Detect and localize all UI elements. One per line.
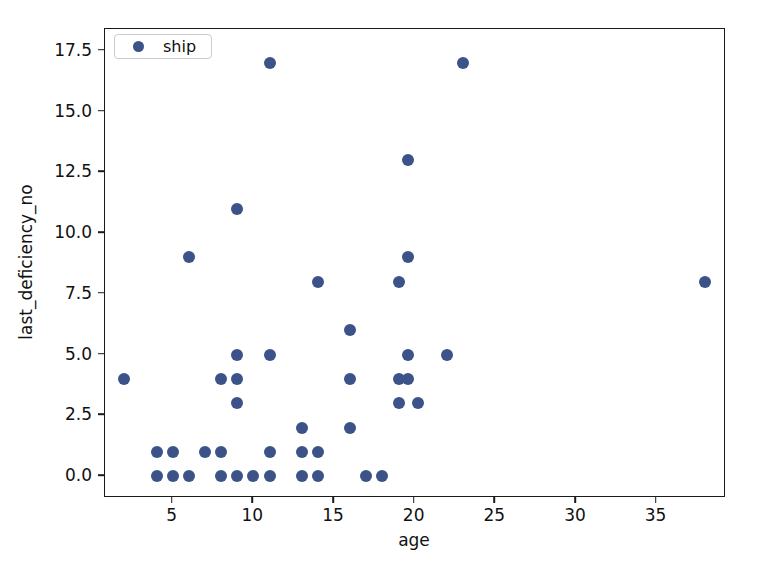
data-point	[312, 446, 324, 458]
data-point	[231, 203, 243, 215]
x-tick-mark	[332, 497, 334, 503]
data-point	[264, 446, 276, 458]
x-tick-label: 25	[484, 505, 506, 525]
x-tick-mark	[171, 497, 173, 503]
data-point	[402, 349, 414, 361]
x-tick-label: 10	[242, 505, 264, 525]
data-point	[296, 470, 308, 482]
y-tick-label: 7.5	[65, 283, 92, 303]
data-point	[247, 470, 259, 482]
data-point	[376, 470, 388, 482]
data-point	[231, 397, 243, 409]
data-point	[393, 397, 405, 409]
data-point	[231, 349, 243, 361]
data-point	[183, 251, 195, 263]
data-point	[360, 470, 372, 482]
data-point	[215, 446, 227, 458]
data-point	[199, 446, 211, 458]
data-point	[215, 373, 227, 385]
data-point	[231, 470, 243, 482]
y-tick-mark	[98, 231, 104, 233]
x-tick-mark	[574, 497, 576, 503]
data-point	[344, 324, 356, 336]
y-tick-label: 12.5	[54, 161, 92, 181]
x-tick-label: 5	[166, 505, 177, 525]
legend: ship	[114, 34, 212, 59]
y-tick-label: 10.0	[54, 222, 92, 242]
y-tick-mark	[98, 171, 104, 173]
y-tick-label: 17.5	[54, 40, 92, 60]
data-point	[312, 470, 324, 482]
legend-label-ship: ship	[163, 37, 196, 56]
x-tick-mark	[655, 497, 657, 503]
data-point	[402, 373, 414, 385]
data-point	[151, 470, 163, 482]
data-point	[312, 276, 324, 288]
x-tick-mark	[252, 497, 254, 503]
plot-axes-frame: ship	[104, 28, 725, 497]
data-point	[215, 470, 227, 482]
y-tick-mark	[98, 110, 104, 112]
y-tick-mark	[98, 292, 104, 294]
data-point	[344, 373, 356, 385]
y-tick-mark	[98, 353, 104, 355]
data-point	[402, 154, 414, 166]
y-tick-label: 5.0	[65, 344, 92, 364]
y-tick-label: 15.0	[54, 101, 92, 121]
data-point	[441, 349, 453, 361]
data-point	[151, 446, 163, 458]
data-point	[344, 422, 356, 434]
data-point	[393, 276, 405, 288]
x-tick-label: 35	[645, 505, 667, 525]
data-point	[412, 397, 424, 409]
scatter-plot-figure: ship 5101520253035 0.02.55.07.510.012.51…	[0, 0, 757, 580]
data-point	[118, 373, 130, 385]
x-tick-label: 15	[322, 505, 344, 525]
data-point	[402, 251, 414, 263]
data-point	[264, 470, 276, 482]
x-tick-mark	[494, 497, 496, 503]
data-point	[457, 57, 469, 69]
data-point	[167, 470, 179, 482]
x-axis-label: age	[398, 530, 430, 550]
data-point	[296, 422, 308, 434]
y-tick-mark	[98, 414, 104, 416]
y-axis-label: last_deficiency_no	[16, 184, 36, 340]
y-tick-mark	[98, 474, 104, 476]
data-point	[183, 470, 195, 482]
x-tick-mark	[413, 497, 415, 503]
x-tick-label: 20	[403, 505, 425, 525]
data-point	[264, 349, 276, 361]
y-tick-label: 0.0	[65, 465, 92, 485]
plot-canvas	[105, 29, 724, 496]
data-point	[167, 446, 179, 458]
y-tick-mark	[98, 49, 104, 51]
data-point	[296, 446, 308, 458]
legend-marker-ship	[133, 41, 144, 52]
y-tick-label: 2.5	[65, 404, 92, 424]
data-point	[231, 373, 243, 385]
data-point	[264, 57, 276, 69]
data-point	[699, 276, 711, 288]
x-tick-label: 30	[564, 505, 586, 525]
